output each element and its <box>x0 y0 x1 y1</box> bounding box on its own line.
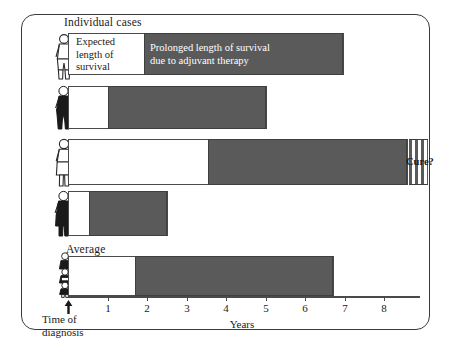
x-axis-tick <box>187 296 188 301</box>
bar-track-average <box>68 256 334 296</box>
x-axis-line <box>68 296 420 298</box>
bar-fill-prolonged-case-3 <box>208 139 407 185</box>
x-axis-tick-label: 6 <box>302 302 308 314</box>
x-axis-tick-label: 7 <box>342 302 348 314</box>
time-of-diagnosis-arrow-icon <box>64 300 73 314</box>
x-axis-tick <box>305 296 306 301</box>
x-axis-tick <box>345 296 346 301</box>
x-axis-tick-label: 4 <box>223 302 229 314</box>
bar-fill-prolonged-average <box>135 256 333 296</box>
x-axis-tick <box>147 296 148 301</box>
x-axis-tick-label: 2 <box>144 302 150 314</box>
x-axis-tick-label: 3 <box>184 302 190 314</box>
x-axis-tick <box>226 296 227 301</box>
survival-chart: Individual cases Average Expected length… <box>0 0 456 353</box>
x-axis-tick <box>108 296 109 301</box>
bar-label-expected: Expected length of survival <box>76 36 146 74</box>
x-axis-tick-label: 1 <box>105 302 111 314</box>
bar-fill-prolonged-case-4 <box>89 191 167 236</box>
bar-label-prolonged: Prolonged length of survival due to adju… <box>150 42 340 67</box>
time-of-diagnosis-label: Time of diagnosis <box>42 313 84 339</box>
x-axis-tick-label: 5 <box>263 302 269 314</box>
x-axis-title: Years <box>230 318 255 330</box>
bar-track-case-2 <box>68 86 267 129</box>
bar-track-case-4 <box>68 191 168 236</box>
x-axis-tick-label: 8 <box>381 302 387 314</box>
bar-fill-prolonged-case-2 <box>108 86 266 129</box>
cure-annotation: Cure? <box>406 156 434 167</box>
bar-track-case-3 <box>68 139 408 185</box>
x-axis-tick <box>266 296 267 301</box>
section-label-individual-cases: Individual cases <box>64 16 142 28</box>
x-axis-tick <box>384 296 385 301</box>
